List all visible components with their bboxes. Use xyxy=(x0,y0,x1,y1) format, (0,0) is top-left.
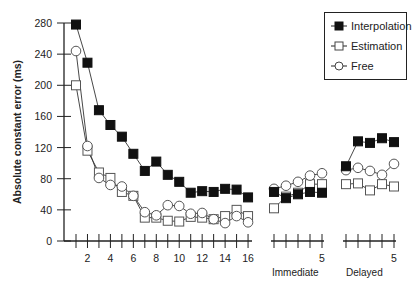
x-tick-label: 8 xyxy=(153,252,159,264)
data-point-interpolation xyxy=(378,134,387,143)
open-square-marker-icon xyxy=(331,41,347,51)
data-point-free xyxy=(163,200,173,210)
chart-container: 04080120160200240280Absolute constant er… xyxy=(0,0,420,290)
data-point-interpolation xyxy=(232,185,241,194)
x-tick-label: 10 xyxy=(173,252,185,264)
legend-item-estimation: Estimation xyxy=(331,37,402,55)
data-point-interpolation xyxy=(244,193,253,202)
delayed-panel-label: Delayed xyxy=(346,267,383,278)
y-tick-label: 200 xyxy=(34,79,52,91)
data-point-interpolation xyxy=(129,149,138,158)
data-point-estimation xyxy=(318,180,327,189)
data-point-interpolation xyxy=(106,120,115,129)
data-point-estimation xyxy=(175,217,184,226)
y-tick-label: 240 xyxy=(34,48,52,60)
data-point-interpolation xyxy=(94,106,103,115)
y-tick-label: 280 xyxy=(34,17,52,29)
data-point-estimation xyxy=(390,182,399,191)
data-point-free xyxy=(232,211,242,221)
data-point-free xyxy=(129,191,139,201)
legend-label-free: Free xyxy=(351,60,374,72)
x-tick-label: 5 xyxy=(319,252,325,264)
data-point-interpolation xyxy=(72,20,81,29)
data-point-interpolation xyxy=(366,138,375,147)
data-point-estimation xyxy=(354,179,363,188)
data-point-free xyxy=(140,207,150,217)
data-point-free xyxy=(281,181,291,191)
data-point-free xyxy=(220,218,230,228)
x-tick-label: 6 xyxy=(130,252,136,264)
data-point-free xyxy=(94,173,104,183)
data-point-free xyxy=(293,177,303,187)
legend-item-free: Free xyxy=(331,57,374,75)
data-point-estimation xyxy=(72,81,81,90)
data-point-estimation xyxy=(366,186,375,195)
data-point-estimation xyxy=(270,204,279,213)
open-circle-marker-icon xyxy=(331,61,347,71)
data-point-free xyxy=(117,182,127,192)
data-point-free xyxy=(389,159,399,169)
data-point-free xyxy=(197,208,207,218)
data-point-interpolation xyxy=(306,187,315,196)
data-point-interpolation xyxy=(152,157,161,166)
data-point-free xyxy=(305,171,315,181)
y-tick-label: 0 xyxy=(46,235,52,247)
data-point-interpolation xyxy=(282,194,291,203)
data-point-interpolation xyxy=(117,132,126,141)
immediate-panel-label: Immediate xyxy=(272,267,319,278)
data-point-free xyxy=(377,170,387,180)
data-point-free xyxy=(106,180,116,190)
filled-square-marker-icon xyxy=(331,21,347,31)
data-point-interpolation xyxy=(209,187,218,196)
y-tick-label: 120 xyxy=(34,142,52,154)
legend-item-interpolation: Interpolation xyxy=(331,17,412,35)
data-point-free xyxy=(353,163,363,173)
data-point-interpolation xyxy=(354,137,363,146)
data-point-interpolation xyxy=(342,162,351,171)
data-point-interpolation xyxy=(390,138,399,147)
data-point-free xyxy=(209,214,219,224)
data-point-interpolation xyxy=(83,58,92,67)
data-point-free xyxy=(365,166,375,176)
data-point-free xyxy=(243,218,253,228)
data-point-free xyxy=(83,141,93,151)
data-point-estimation xyxy=(342,180,351,189)
data-point-free xyxy=(151,211,161,221)
data-point-estimation xyxy=(378,180,387,189)
x-tick-label: 16 xyxy=(242,252,254,264)
x-tick-label: 5 xyxy=(391,252,397,264)
legend-label-estimation: Estimation xyxy=(351,40,402,52)
chart-legend: Interpolation Estimation Free xyxy=(324,12,407,80)
data-point-interpolation xyxy=(198,187,207,196)
x-tick-label: 4 xyxy=(107,252,113,264)
data-point-estimation xyxy=(163,216,172,225)
x-tick-label: 12 xyxy=(196,252,208,264)
legend-label-interpolation: Interpolation xyxy=(351,20,412,32)
data-point-interpolation xyxy=(140,166,149,175)
x-tick-label: 14 xyxy=(219,252,231,264)
data-point-free xyxy=(186,209,196,219)
data-point-free xyxy=(71,46,81,56)
x-tick-label: 2 xyxy=(85,252,91,264)
y-tick-label: 80 xyxy=(40,173,52,185)
series-line-free xyxy=(76,51,248,223)
data-point-interpolation xyxy=(294,190,303,199)
y-tick-label: 40 xyxy=(40,204,52,216)
y-tick-label: 160 xyxy=(34,110,52,122)
data-point-free xyxy=(174,201,184,211)
y-axis-label: Absolute constant error (ms) xyxy=(11,60,23,204)
data-point-interpolation xyxy=(175,177,184,186)
data-point-interpolation xyxy=(270,187,279,196)
data-point-free xyxy=(317,168,327,178)
data-point-interpolation xyxy=(186,188,195,197)
data-point-interpolation xyxy=(318,188,327,197)
data-point-interpolation xyxy=(221,184,230,193)
data-point-interpolation xyxy=(163,170,172,179)
